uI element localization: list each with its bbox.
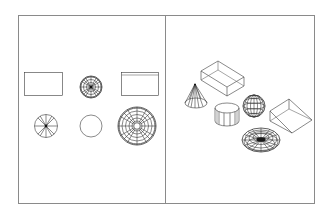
wedge-iso xyxy=(270,99,312,133)
torus-iso xyxy=(242,128,280,152)
box-iso xyxy=(201,61,244,96)
sphere-top-view xyxy=(80,76,102,98)
cad-drawing xyxy=(0,0,331,215)
cylinder-top-view xyxy=(80,115,102,137)
drawing-frame xyxy=(19,16,315,204)
torus-top-view xyxy=(118,107,156,145)
left-viewport-top-view[interactable] xyxy=(25,73,159,146)
cylinder-iso xyxy=(215,103,239,126)
wedge-top-view xyxy=(122,73,159,96)
sphere-iso xyxy=(243,95,265,117)
box-top-view xyxy=(25,73,63,96)
right-viewport-iso-view[interactable] xyxy=(185,61,312,152)
cone-top-view xyxy=(35,115,58,138)
cone-iso xyxy=(185,84,207,108)
